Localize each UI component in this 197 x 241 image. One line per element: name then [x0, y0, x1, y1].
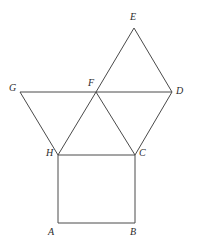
vertex-label-A: A — [48, 227, 54, 237]
edge-F-C — [96, 92, 135, 155]
vertex-label-C: C — [139, 148, 146, 158]
edge-G-H — [20, 92, 58, 155]
edge-C-D — [135, 92, 172, 155]
vertex-label-E: E — [130, 12, 136, 22]
vertex-label-B: B — [130, 227, 136, 237]
geometric-figure: ABCDEFGH — [0, 0, 197, 241]
vertex-label-H: H — [46, 148, 53, 158]
edge-E-D — [134, 28, 172, 92]
vertex-label-G: G — [9, 83, 16, 93]
figure-canvas — [0, 0, 197, 241]
vertex-label-D: D — [176, 86, 183, 96]
vertex-label-F: F — [88, 78, 94, 88]
edge-F-E — [96, 28, 134, 92]
edge-H-F — [58, 92, 96, 155]
edge-layer — [20, 28, 172, 223]
